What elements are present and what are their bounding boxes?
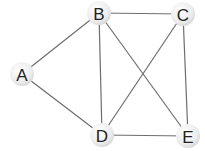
nodes-layer: ABCDE: [10, 1, 200, 148]
edge-a-b: [22, 13, 99, 74]
edge-b-d: [99, 13, 102, 135]
edge-b-e: [99, 13, 188, 136]
node-e: E: [176, 124, 200, 148]
graph-diagram: ABCDE: [0, 0, 205, 151]
edge-c-d: [102, 14, 183, 135]
edge-c-e: [183, 14, 188, 136]
node-a: A: [10, 62, 34, 86]
node-c: C: [171, 2, 195, 26]
edge-b-c: [99, 13, 183, 14]
node-d: D: [90, 123, 114, 147]
node-label: D: [96, 127, 108, 146]
edge-a-d: [22, 74, 102, 135]
node-label: E: [182, 128, 193, 147]
edges-layer: [22, 13, 188, 136]
node-label: B: [93, 5, 104, 24]
node-label: A: [16, 66, 28, 85]
graph-canvas: ABCDE: [0, 0, 205, 151]
node-b: B: [87, 1, 111, 25]
edge-d-e: [102, 135, 188, 136]
node-label: C: [177, 6, 189, 25]
